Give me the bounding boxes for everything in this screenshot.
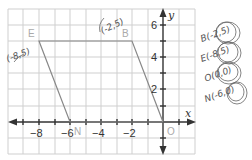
- x-tick-label: −2: [123, 128, 136, 139]
- coordinate-graph: −8 −6 −4 −2 6 4 2 x y E B O N (-8,5) (-2…: [0, 0, 252, 160]
- vertex-label-N: N: [74, 127, 81, 137]
- x-tick-label: −6: [61, 128, 74, 139]
- y-tick-label: 6: [151, 20, 157, 31]
- y-tick-label: 2: [151, 84, 157, 95]
- vertex-label-E: E: [28, 29, 35, 39]
- x-axis-label: x: [185, 108, 191, 119]
- x-tick-label: −8: [30, 128, 43, 139]
- x-tick-label: −4: [92, 128, 105, 139]
- x-axis-left-arrow-icon: [8, 119, 17, 126]
- vertex-label-O: O: [167, 127, 175, 137]
- vertex-label-B: B: [122, 29, 129, 39]
- y-tick-label: 4: [151, 52, 157, 63]
- y-axis: [160, 14, 166, 150]
- y-axis-label: y: [168, 10, 174, 21]
